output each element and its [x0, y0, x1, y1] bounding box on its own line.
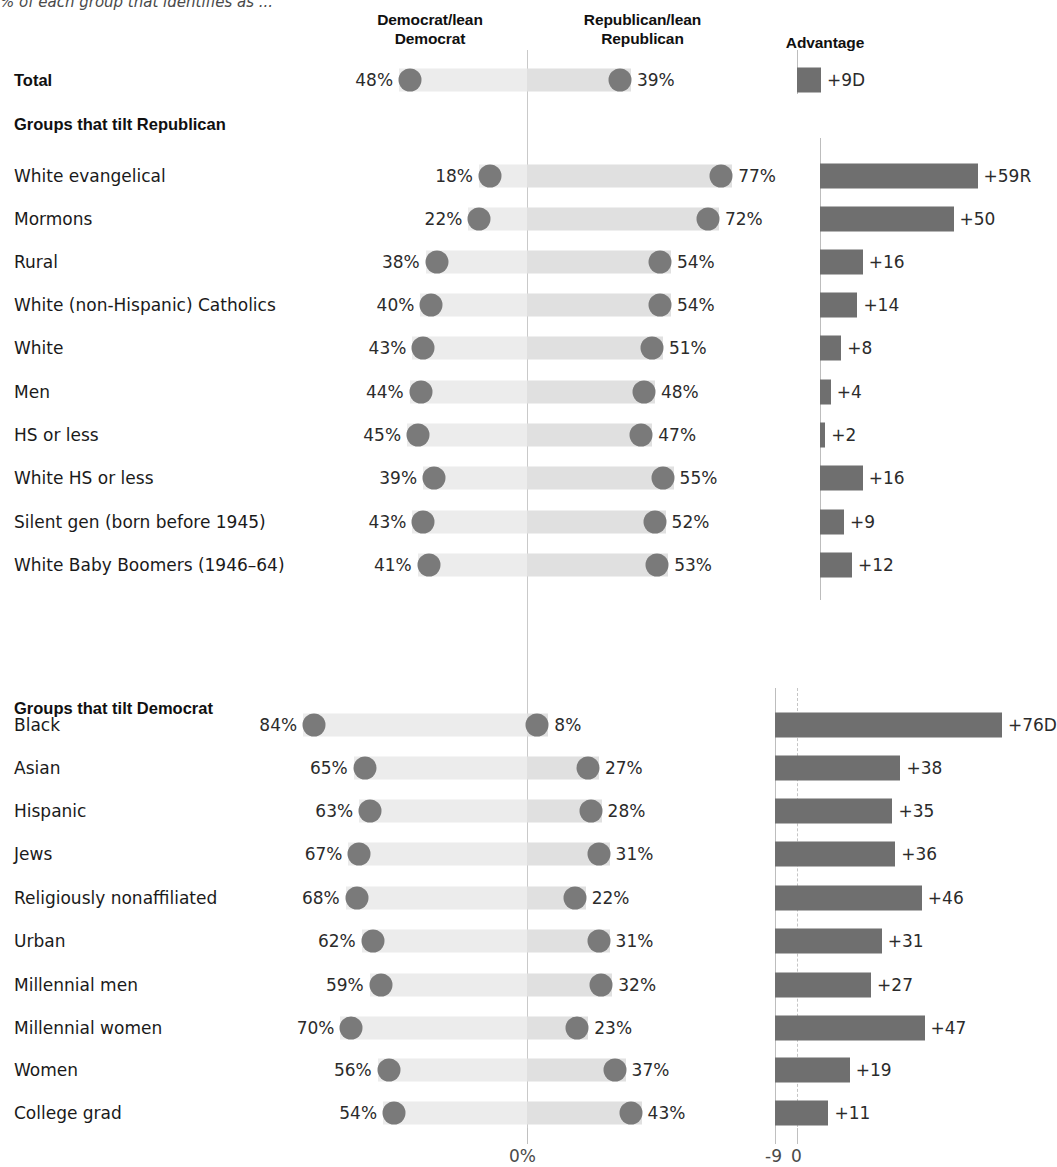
- row-group-label: Men: [14, 382, 50, 402]
- advantage-label: +8: [847, 338, 872, 358]
- row-group-label: Silent gen (born before 1945): [14, 512, 266, 532]
- advantage-bar: [820, 552, 852, 577]
- chart-row: White Baby Boomers (1946–64)41%53%+12: [0, 543, 1031, 586]
- chart-row: Urban62%31%+31: [0, 919, 1031, 962]
- republican-dot: [603, 1058, 626, 1081]
- axis-tick-adv-zero: [797, 1128, 798, 1144]
- republican-dot: [643, 510, 666, 533]
- row-group-label: HS or less: [14, 425, 99, 445]
- advantage-bar: [820, 379, 831, 404]
- democrat-dot: [468, 207, 491, 230]
- section-heading-label: Groups that tilt Republican: [14, 114, 226, 133]
- chart-row: White evangelical18%77%+59R: [0, 154, 1031, 197]
- axis-tick-zero-percent: [527, 1128, 528, 1144]
- republican-dot: [696, 207, 719, 230]
- democrat-value: 40%: [377, 295, 415, 315]
- republican-value: 77%: [738, 166, 776, 186]
- republican-value: 8%: [554, 715, 581, 735]
- advantage-label: +59R: [984, 166, 1032, 186]
- row-group-label: White HS or less: [14, 468, 154, 488]
- democrat-dot: [340, 1016, 363, 1039]
- republican-value: 39%: [637, 70, 675, 90]
- republican-dot: [619, 1101, 642, 1124]
- advantage-label: +12: [858, 555, 894, 575]
- democrat-value: 22%: [425, 209, 463, 229]
- row-group-label: Rural: [14, 252, 58, 272]
- advantage-label: +35: [898, 801, 934, 821]
- advantage-bar: [820, 465, 863, 490]
- advantage-label: +16: [869, 468, 905, 488]
- chart-row: Millennial women70%23%+47: [0, 1006, 1031, 1049]
- republican-dot: [710, 164, 733, 187]
- advantage-bar: [775, 1057, 850, 1082]
- democrat-value: 39%: [379, 468, 417, 488]
- republican-value: 28%: [608, 801, 646, 821]
- row-group-label: White Baby Boomers (1946–64): [14, 555, 285, 575]
- republican-value: 47%: [658, 425, 696, 445]
- republican-dot: [526, 713, 549, 736]
- republican-dot: [587, 842, 610, 865]
- chart-row: Jews67%31%+36: [0, 832, 1031, 875]
- axis-label-adv-zero: 0: [791, 1146, 802, 1166]
- republican-dot: [646, 553, 669, 576]
- democrat-dot: [348, 842, 371, 865]
- chart-row: Religiously nonaffiliated68%22%+46: [0, 876, 1031, 919]
- advantage-label: +2: [831, 425, 856, 445]
- democrat-dot: [377, 1058, 400, 1081]
- column-header-democrat-line2: Democrat: [355, 29, 505, 48]
- row-group-label: College grad: [14, 1103, 122, 1123]
- chart-row: White43%51%+8: [0, 326, 1031, 369]
- chart-row: Silent gen (born before 1945)43%52%+9: [0, 500, 1031, 543]
- republican-dot: [608, 68, 631, 91]
- democrat-bar: [354, 756, 527, 779]
- advantage-bar: [775, 841, 895, 866]
- chart-subtitle: % of each group that identifies as ...: [0, 0, 273, 11]
- row-group-label: Millennial women: [14, 1018, 162, 1038]
- advantage-label: +76D: [1008, 715, 1057, 735]
- democrat-bar: [346, 886, 527, 909]
- row-group-label: Millennial men: [14, 975, 138, 995]
- republican-value: 32%: [618, 975, 656, 995]
- democrat-bar: [359, 799, 527, 822]
- republican-dot: [579, 799, 602, 822]
- advantage-label: +4: [837, 382, 862, 402]
- democrat-value: 67%: [305, 844, 343, 864]
- chart-row: Mormons22%72%+50: [0, 197, 1031, 240]
- republican-value: 31%: [616, 844, 654, 864]
- advantage-label: +11: [834, 1103, 870, 1123]
- republican-value: 52%: [672, 512, 710, 532]
- advantage-label: +16: [869, 252, 905, 272]
- democrat-dot: [399, 68, 422, 91]
- republican-value: 31%: [616, 931, 654, 951]
- advantage-bar: [775, 1100, 828, 1125]
- advantage-label: +9: [850, 512, 875, 532]
- republican-dot: [640, 336, 663, 359]
- democrat-value: 65%: [310, 758, 348, 778]
- row-group-label: Mormons: [14, 209, 92, 229]
- chart-row: Asian65%27%+38: [0, 746, 1031, 789]
- democrat-dot: [369, 973, 392, 996]
- advantage-label: +14: [863, 295, 899, 315]
- chart-row: Rural38%54%+16: [0, 240, 1031, 283]
- republican-dot: [648, 250, 671, 273]
- democrat-value: 84%: [259, 715, 297, 735]
- chart-row: College grad54%43%+11: [0, 1091, 1031, 1134]
- republican-value: 37%: [632, 1060, 670, 1080]
- republican-value: 54%: [677, 252, 715, 272]
- democrat-value: 45%: [363, 425, 401, 445]
- democrat-dot: [383, 1101, 406, 1124]
- democrat-dot: [359, 799, 382, 822]
- democrat-value: 68%: [302, 888, 340, 908]
- republican-dot: [651, 466, 674, 489]
- democrat-value: 63%: [315, 801, 353, 821]
- democrat-value: 43%: [369, 512, 407, 532]
- advantage-bar: [820, 335, 841, 360]
- advantage-bar: [820, 163, 978, 188]
- democrat-dot: [409, 380, 432, 403]
- republican-value: 51%: [669, 338, 707, 358]
- row-group-label: Hispanic: [14, 801, 86, 821]
- chart-row: White HS or less39%55%+16: [0, 456, 1031, 499]
- democrat-value: 18%: [435, 166, 473, 186]
- republican-value: 55%: [680, 468, 718, 488]
